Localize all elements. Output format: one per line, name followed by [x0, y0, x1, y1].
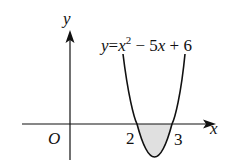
equation-label: y=x2 − 5x + 6: [99, 34, 192, 55]
parabola-diagram: y x O 2 3 y=x2 − 5x + 6: [0, 0, 230, 166]
root-label-2: 2: [126, 129, 135, 148]
y-axis-label: y: [61, 9, 71, 28]
root-label-3: 3: [174, 130, 183, 149]
x-axis-label: x: [209, 119, 218, 138]
origin-label: O: [48, 129, 60, 148]
